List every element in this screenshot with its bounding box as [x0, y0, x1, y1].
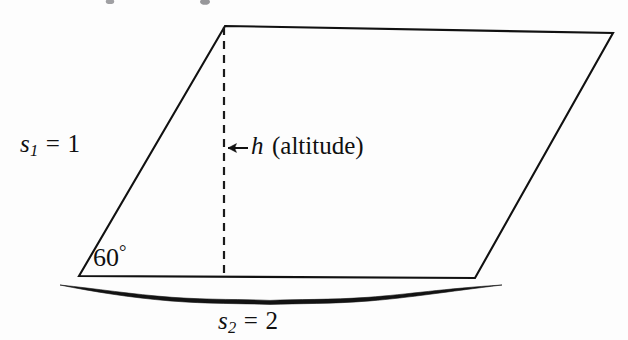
side1-variable: s	[20, 130, 30, 157]
cropped-text-remnants	[106, 0, 210, 5]
angle-label: 60°	[93, 243, 126, 271]
parallelogram-figure: s1=1 h(altitude) 60° s2=2	[0, 0, 628, 340]
angle-value: 60	[93, 243, 119, 272]
altitude-arrow-icon	[228, 144, 248, 153]
side1-relation: =	[38, 130, 67, 157]
side2-relation: =	[236, 307, 265, 334]
side2-label: s2=2	[218, 308, 278, 337]
side2-variable: s	[218, 307, 228, 334]
side1-label: s1=1	[20, 131, 80, 160]
altitude-label: h(altitude)	[251, 133, 364, 158]
degree-sign-icon: °	[119, 241, 126, 262]
altitude-note: (altitude)	[264, 132, 364, 159]
side1-value: 1	[67, 130, 80, 157]
figure-canvas	[0, 0, 628, 340]
side2-value: 2	[265, 307, 278, 334]
altitude-variable: h	[251, 132, 264, 159]
base-measure-brace	[60, 285, 502, 304]
